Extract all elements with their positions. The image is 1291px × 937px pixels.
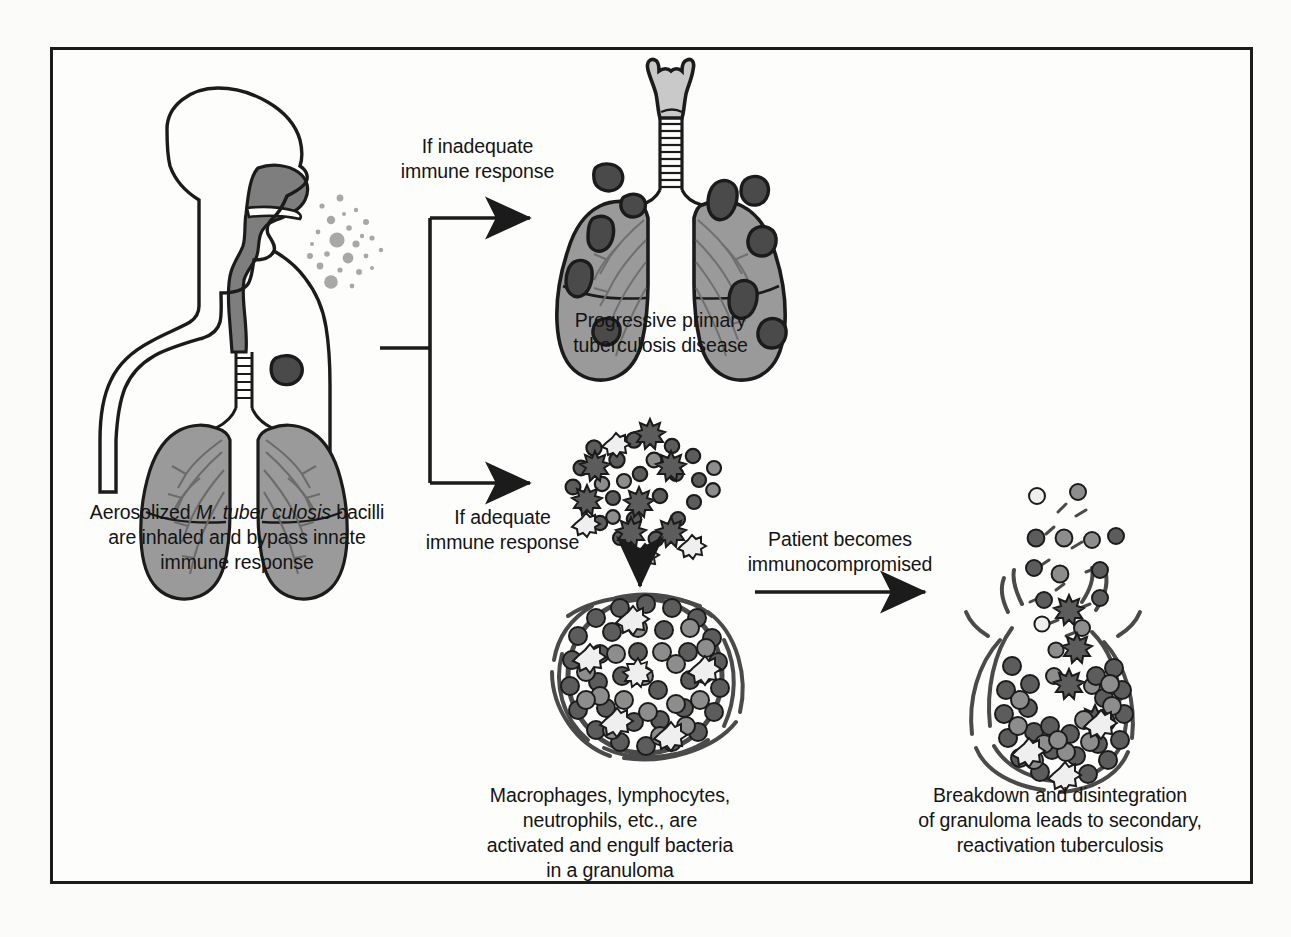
intact-granuloma-illustration [552,595,743,760]
caption-immunocompromised: Patient becomes immunocompromised [700,527,980,577]
tubercle-lesion-torso [271,356,302,385]
caption-granuloma: Macrophages, lymphocytes, neutrophils, e… [455,783,765,883]
tracheal-rings [236,358,252,398]
caption-breakdown: Breakdown and disintegration of granulom… [905,783,1215,858]
figure-page: Aerosolized M. tuber culosis bacilli are… [0,0,1291,937]
caption-progressive-disease: Progressive primary tuberculosis disease [528,308,793,358]
caption-source-species: M. tuber culosis [196,501,331,523]
main-bronchi [640,190,702,205]
caption-source: Aerosolized M. tuber culosis bacilli are… [47,500,427,575]
aerosol-droplets [307,195,383,289]
branch-connector [380,218,530,483]
caption-source-prefix: Aerosolized [90,501,196,523]
tracheal-rings-anterior [660,124,682,187]
caption-branch-inadequate: If inadequate immune response [370,134,585,184]
trachea [216,352,272,428]
disintegrating-granuloma-illustration [966,484,1140,792]
bronchi-split [216,408,272,428]
caption-branch-adequate: If adequate immune response [395,505,610,555]
